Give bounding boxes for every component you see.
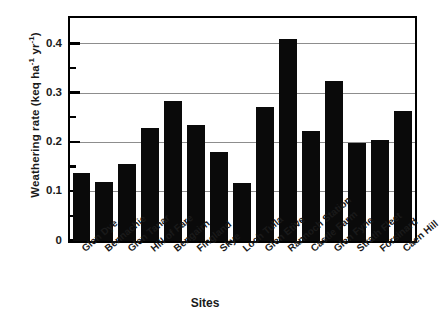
bar — [279, 39, 297, 241]
y-axis-tick-label: 0.3 — [20, 87, 62, 99]
y-axis-tick-label: 0.2 — [20, 136, 62, 148]
y-axis-title-sup1: -1 — [27, 58, 36, 65]
plot-inner — [70, 18, 415, 241]
y-axis-tick-minor — [70, 116, 76, 118]
y-axis-tick-major — [70, 141, 80, 144]
y-axis-tick-minor — [70, 67, 76, 69]
y-axis-tick-label: 0.4 — [20, 38, 62, 50]
y-axis-tick-label: 0.1 — [20, 185, 62, 197]
gridline — [70, 93, 415, 94]
bar — [73, 173, 91, 241]
x-axis-title: Sites — [120, 296, 290, 310]
plot-area — [68, 16, 417, 243]
y-axis-title-suffix: ) — [29, 32, 41, 36]
y-axis-tick-major — [70, 91, 80, 94]
y-axis-tick-label: 0 — [20, 235, 62, 247]
gridline — [70, 43, 415, 44]
y-axis-tick-minor — [70, 165, 76, 167]
y-axis-tick-major — [70, 42, 80, 45]
y-axis-title-prefix: Weathering rate (keq ha — [29, 65, 41, 197]
